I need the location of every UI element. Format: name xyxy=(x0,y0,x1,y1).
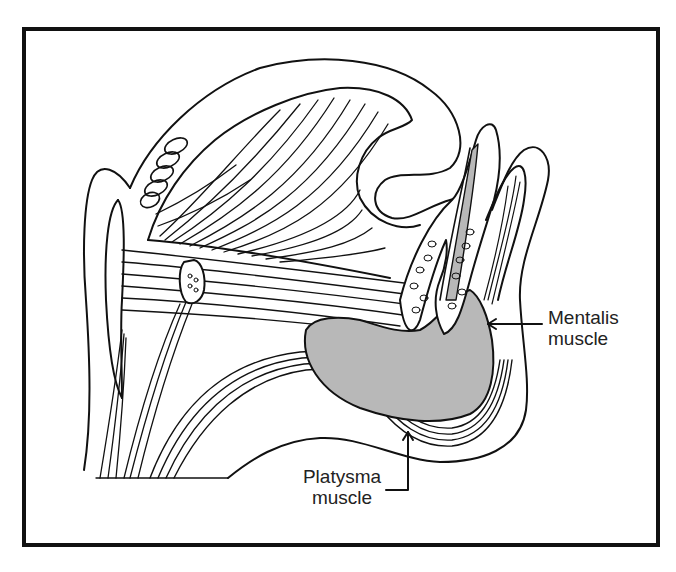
mentalis-label-line2: muscle xyxy=(548,328,619,349)
geniohyoid-muscles xyxy=(122,250,420,334)
platysma-label-line1: Platysma xyxy=(282,466,402,487)
mentalis-muscle-label: Mentalis muscle xyxy=(548,307,619,349)
platysma-muscle-label: Platysma muscle xyxy=(282,466,402,508)
shaded-region xyxy=(305,290,493,421)
platysma-label-line2: muscle xyxy=(282,487,402,508)
pharynx xyxy=(84,169,130,470)
mandible-teeth xyxy=(400,124,500,334)
hyoid-bone xyxy=(180,260,205,303)
mentalis-label-line1: Mentalis xyxy=(548,307,619,328)
